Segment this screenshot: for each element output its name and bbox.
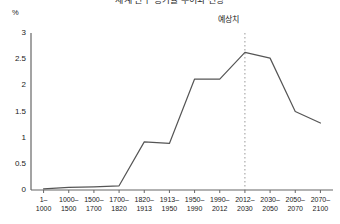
y-axis-tick-1: 1 — [2, 134, 26, 142]
y-axis-tick-2-5: 2.5 — [2, 55, 26, 63]
y-axis-tick-2: 2 — [2, 81, 26, 89]
y-axis-tick-0: 0 — [2, 186, 26, 194]
chart-container: 세계 인구 증가율 추이와 전망 % 예상치 32.521.510.50 1– … — [0, 0, 340, 224]
data-series-line — [44, 52, 321, 189]
y-axis-tick-1-5: 1.5 — [2, 108, 26, 116]
x-axis-tick-label: 2070– 2100 — [305, 195, 336, 213]
y-axis-tick-3: 3 — [2, 29, 26, 37]
chart-plot-area — [0, 0, 340, 224]
y-axis-tick-0-5: 0.5 — [2, 160, 26, 168]
